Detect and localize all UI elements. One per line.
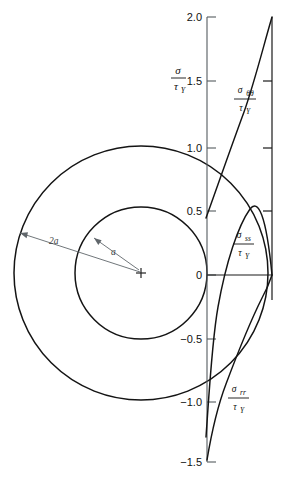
- label-rr-sub: rr: [240, 388, 246, 397]
- inner-radius-dimension: [94, 238, 139, 270]
- label-rr-tau: τ: [233, 402, 237, 412]
- label-ss-sub: ss: [245, 234, 251, 243]
- inner-radius-label: a: [111, 247, 116, 257]
- label-ss-tau: τ: [238, 248, 242, 258]
- outer-radius-arrowhead: [20, 232, 28, 238]
- figure-root: 2.0 1.5 1.0 0.5 0 −0.5 −1.0 −1.5: [0, 0, 284, 482]
- tick-label-neg-0-5: −0.5: [180, 333, 202, 345]
- tick-label-neg-1-5: −1.5: [180, 456, 202, 468]
- tick-label-1-5: 1.5: [187, 75, 202, 87]
- stress-plot-group: 2.0 1.5 1.0 0.5 0 −0.5 −1.0 −1.5: [180, 11, 272, 468]
- label-sigma-rr: σ rr τ Y: [228, 384, 249, 415]
- axis-label-numerator: σ: [175, 64, 181, 76]
- outer-radius-label: 2a: [49, 236, 59, 246]
- tick-label-0-5: 0.5: [187, 205, 202, 217]
- label-tt-sub: θθ: [246, 89, 254, 98]
- label-sigma-theta-theta: σ θθ τ Y: [234, 85, 256, 116]
- label-rr-sigma: σ: [232, 384, 237, 394]
- inner-radius-arrowhead: [94, 238, 102, 245]
- label-ss-sigma: σ: [237, 230, 242, 240]
- axis-label-denominator-tau: τ: [174, 80, 179, 92]
- curve-sigma-theta-theta: [206, 17, 272, 218]
- right-frame-ticks: [263, 81, 272, 211]
- label-rr-tau-sub: Y: [240, 406, 245, 415]
- stress-figure-svg: 2.0 1.5 1.0 0.5 0 −0.5 −1.0 −1.5: [0, 0, 284, 482]
- tick-label-1-0: 1.0: [187, 142, 202, 154]
- label-tt-tau-sub: Y: [246, 107, 251, 116]
- center-cross-icon: [136, 268, 146, 278]
- curve-sigma-rr: [207, 275, 272, 460]
- axis-label-denominator-sub: Y: [181, 86, 187, 95]
- outer-radius-dimension: [20, 232, 140, 272]
- label-tt-sigma: σ: [238, 85, 243, 95]
- inclusion-diagram-group: [14, 146, 268, 400]
- tick-label-2-0: 2.0: [187, 11, 202, 23]
- tick-label-0: 0: [196, 269, 202, 281]
- label-sigma-ss: σ ss τ Y: [233, 230, 254, 261]
- label-ss-tau-sub: Y: [245, 252, 250, 261]
- tick-label-neg-1-0: −1.0: [180, 396, 202, 408]
- axis-label-sigma-over-tau: σ τ Y: [171, 64, 187, 95]
- label-tt-tau: τ: [239, 103, 243, 113]
